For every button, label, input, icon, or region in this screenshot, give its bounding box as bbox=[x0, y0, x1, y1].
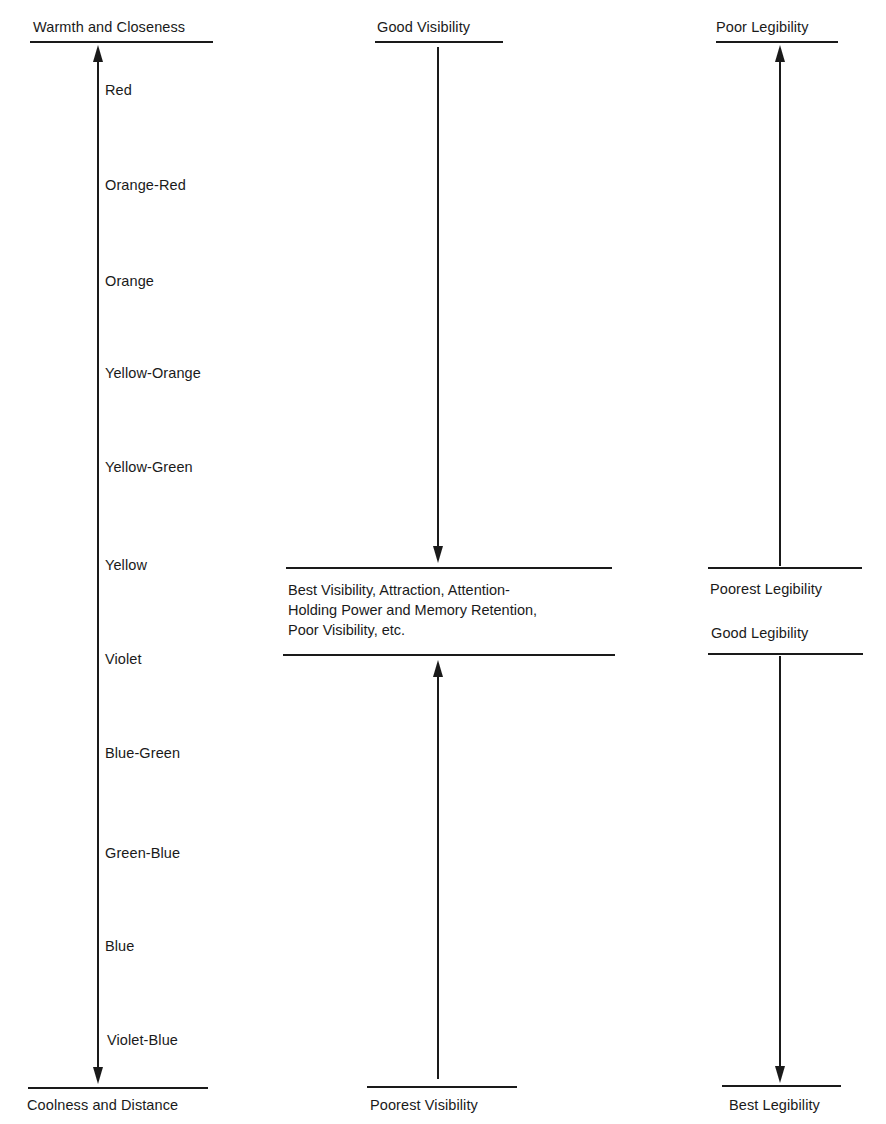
good-visibility-label: Good Visibility bbox=[377, 18, 470, 36]
warmth-closeness-label: Warmth and Closeness bbox=[33, 18, 185, 36]
color-label-blue-green: Blue-Green bbox=[105, 744, 180, 762]
middle-top-rule bbox=[375, 41, 503, 43]
right-lower-arrow-shaft bbox=[779, 656, 781, 1070]
middle-center-upper-rule bbox=[286, 567, 612, 569]
color-label-blue: Blue bbox=[105, 937, 134, 955]
middle-lower-arrow-shaft bbox=[437, 675, 439, 1079]
color-label-yellow: Yellow bbox=[105, 556, 147, 574]
middle-center-lower-rule bbox=[283, 654, 615, 656]
right-bottom-rule bbox=[722, 1085, 841, 1087]
middle-bottom-rule bbox=[367, 1086, 517, 1088]
color-label-violet: Violet bbox=[105, 650, 142, 668]
visibility-center-text: Best Visibility, Attraction, Attention- … bbox=[288, 580, 537, 640]
color-label-violet-blue: Violet-Blue bbox=[107, 1031, 178, 1049]
coolness-distance-label: Coolness and Distance bbox=[27, 1096, 178, 1114]
color-label-yellow-orange: Yellow-Orange bbox=[105, 364, 201, 382]
arrow-down-icon bbox=[93, 1067, 103, 1084]
good-legibility-label: Good Legibility bbox=[711, 624, 808, 642]
right-center-upper-rule bbox=[708, 567, 862, 569]
center-text-line-2: Holding Power and Memory Retention, bbox=[288, 600, 537, 620]
color-label-red: Red bbox=[105, 81, 132, 99]
center-text-line-1: Best Visibility, Attraction, Attention- bbox=[288, 580, 537, 600]
left-top-rule bbox=[30, 41, 213, 43]
poorest-legibility-label: Poorest Legibility bbox=[710, 580, 822, 598]
middle-upper-arrow-shaft bbox=[437, 47, 439, 547]
right-center-lower-rule bbox=[708, 653, 863, 655]
right-upper-arrow-shaft bbox=[779, 60, 781, 566]
color-label-green-blue: Green-Blue bbox=[105, 844, 180, 862]
best-legibility-label: Best Legibility bbox=[729, 1096, 820, 1114]
center-text-line-3: Poor Visibility, etc. bbox=[288, 620, 537, 640]
color-label-orange-red: Orange-Red bbox=[105, 176, 186, 194]
left-bottom-rule bbox=[28, 1087, 208, 1089]
arrow-down-icon bbox=[433, 546, 443, 563]
poor-legibility-label: Poor Legibility bbox=[716, 18, 809, 36]
poorest-visibility-label: Poorest Visibility bbox=[370, 1096, 478, 1114]
left-double-arrow-shaft bbox=[97, 58, 99, 1070]
arrow-down-icon bbox=[775, 1066, 785, 1083]
right-top-rule bbox=[716, 41, 838, 43]
color-label-orange: Orange bbox=[105, 272, 154, 290]
color-label-yellow-green: Yellow-Green bbox=[105, 458, 193, 476]
